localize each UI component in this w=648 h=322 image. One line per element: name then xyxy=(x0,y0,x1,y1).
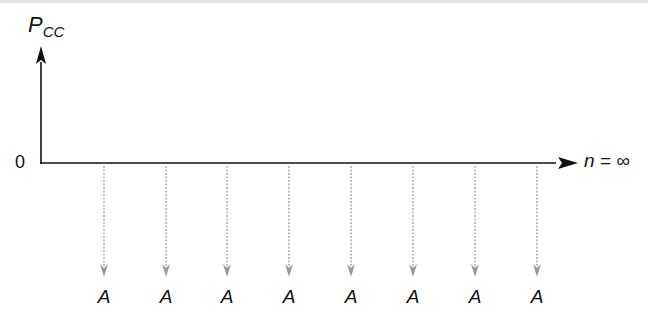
origin-label: 0 xyxy=(15,152,25,173)
y-axis xyxy=(36,46,46,164)
arrow-label: A xyxy=(217,286,237,308)
arrow-label: A xyxy=(465,286,485,308)
cash-flow-arrow xyxy=(347,166,355,277)
arrow-label: A xyxy=(403,286,423,308)
cash-flow-arrow xyxy=(162,166,170,277)
x-axis-arrowhead-icon xyxy=(558,157,578,169)
x-axis-end-label: n = ∞ xyxy=(584,150,630,172)
cash-flow-arrow xyxy=(223,166,231,277)
cash-flow-arrow xyxy=(285,166,293,277)
cash-flow-arrow xyxy=(533,166,541,277)
arrow-label: A xyxy=(156,286,176,308)
y-axis-arrowhead-icon xyxy=(36,46,46,64)
cash-flow-arrow xyxy=(471,166,479,277)
x-axis xyxy=(40,157,578,169)
y-axis-label: PCC xyxy=(28,12,64,40)
cash-flow-arrow xyxy=(409,166,417,277)
arrow-label: A xyxy=(279,286,299,308)
arrow-label: A xyxy=(341,286,361,308)
arrow-label: A xyxy=(94,286,114,308)
arrow-label: A xyxy=(527,286,547,308)
cash-flow-arrow xyxy=(100,166,108,277)
cash-flow-diagram xyxy=(0,0,648,322)
cash-flow-arrows xyxy=(100,166,541,277)
